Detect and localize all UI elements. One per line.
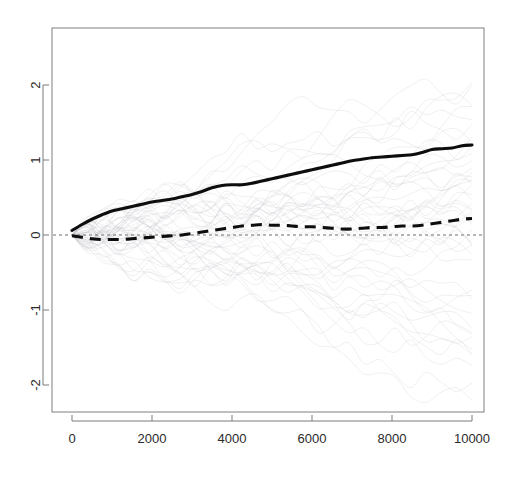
x-axis-tick-label: 4000 [218,431,247,446]
x-axis-tick-label: 6000 [298,431,327,446]
y-axis-tick-label: 0 [28,231,43,238]
chart-root: -2-1012 0200040006000800010000 [0,0,517,480]
x-axis-tick-label: 10000 [454,431,490,446]
x-axis-tick-label: 0 [68,431,75,446]
y-axis-tick-label: -2 [28,379,43,391]
line-chart: -2-1012 0200040006000800010000 [0,0,517,480]
y-axis-tick-label: 1 [28,156,43,163]
x-axis-tick-label: 2000 [138,431,167,446]
x-axis-tick-label: 8000 [378,431,407,446]
y-axis-tick-label: -1 [28,304,43,316]
y-axis-tick-label: 2 [28,81,43,88]
